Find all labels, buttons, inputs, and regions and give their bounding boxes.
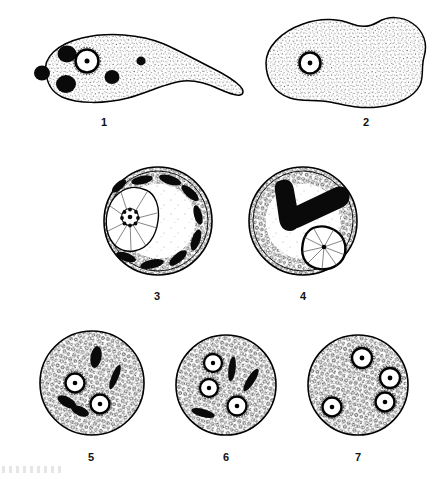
inclusion-body [58, 46, 77, 63]
nucleus [64, 372, 87, 395]
figure-4-nucleus [302, 226, 345, 270]
figure-6-label: 6 [223, 451, 229, 463]
karyosome [388, 376, 393, 381]
nucleus [226, 395, 249, 418]
figure-3-nucleus [106, 188, 158, 252]
inclusion-body [34, 66, 50, 81]
figure-3-label: 3 [154, 290, 160, 302]
karyosome [308, 61, 313, 66]
figure-7-label: 7 [355, 451, 361, 463]
inclusion-body [136, 57, 145, 66]
illustration-plate: 1 2 [0, 0, 448, 479]
nucleus [89, 393, 112, 416]
karyosome [73, 381, 78, 386]
plate-canvas: 1 2 [0, 0, 448, 479]
inclusion-body [56, 75, 76, 93]
figure-4-label: 4 [300, 290, 307, 302]
karyosome [383, 400, 388, 405]
karyosome [360, 356, 365, 361]
nucleus [321, 396, 344, 419]
karyosome [330, 405, 335, 410]
inclusion-body [105, 70, 120, 84]
scan-artifact-smudge [2, 466, 64, 473]
karyosome [235, 404, 240, 409]
nucleus [374, 391, 397, 414]
karyosome [85, 59, 90, 64]
figure-2-label: 2 [363, 116, 369, 128]
karyosome [211, 361, 215, 365]
karyosome [322, 245, 327, 250]
figure-5-label: 5 [88, 451, 94, 463]
karyosome [98, 402, 103, 407]
figure-1-label: 1 [101, 116, 107, 128]
karyosome [207, 386, 211, 390]
